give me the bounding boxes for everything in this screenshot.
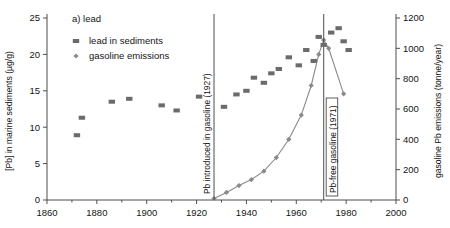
x-axis-tick-label: 1920: [186, 207, 207, 218]
lead-sediment-point: [296, 63, 302, 67]
lead-sediment-point: [345, 48, 351, 52]
lead-sediment-point: [79, 116, 85, 120]
x-axis-tick-label: 1860: [36, 207, 57, 218]
right-axis-title: gasoline Pb emissions (tonne/year): [433, 44, 443, 178]
lead-sediment-point: [311, 59, 317, 63]
lead-sediment-point: [126, 97, 132, 101]
right-axis-tick-label: 1200: [403, 12, 424, 23]
lead-sediment-point: [243, 89, 249, 93]
lead-sediment-point: [74, 133, 80, 137]
panel-label: a) lead: [72, 13, 101, 24]
lead-sediment-point: [109, 100, 115, 104]
gasoline-emissions-point: [309, 83, 314, 88]
lead-sediment-point: [286, 55, 292, 59]
x-axis-tick-label: 1980: [336, 207, 357, 218]
lead-sediment-point: [158, 103, 164, 107]
lead-chart-figure: 1860188019001920194019601980200005101520…: [0, 0, 450, 228]
lead-sediment-point: [173, 108, 179, 112]
left-axis-tick-label: 20: [29, 49, 40, 60]
gasoline-emissions-point: [224, 190, 229, 195]
left-axis-tick-label: 15: [29, 85, 40, 96]
left-axis-tick-label: 25: [29, 12, 40, 23]
gasoline-emissions-point: [299, 112, 304, 117]
x-axis-tick-label: 1940: [236, 207, 257, 218]
gasoline-emissions-point: [341, 91, 346, 96]
legend-marker-diamond: [73, 53, 78, 58]
right-axis-tick-label: 400: [403, 134, 419, 145]
lead-sediment-point: [268, 71, 274, 75]
right-axis-tick-label: 0: [403, 194, 408, 205]
lead-sediment-point: [276, 67, 282, 71]
left-axis-tick-label: 0: [35, 194, 40, 205]
lead-sediment-point: [303, 48, 309, 52]
x-axis-tick-label: 1960: [286, 207, 307, 218]
chart-canvas: 1860188019001920194019601980200005101520…: [0, 0, 450, 228]
lead-sediment-point: [316, 35, 322, 39]
legend-label: lead in sediments: [89, 35, 163, 46]
lead-sediment-point: [221, 105, 227, 109]
left-axis-tick-label: 10: [29, 122, 40, 133]
legend-label: gasoline emissions: [89, 50, 170, 61]
right-axis-tick-label: 1000: [403, 43, 424, 54]
lead-sediment-point: [251, 76, 257, 80]
gasoline-emissions-point: [236, 183, 241, 188]
lead-sediment-point: [328, 31, 334, 35]
right-axis-tick-label: 600: [403, 103, 419, 114]
lead-sediment-point: [335, 26, 341, 30]
right-axis-tick-label: 200: [403, 164, 419, 175]
lead-sediment-point: [261, 81, 267, 85]
annotation-pb-free: Pb-free gasoline (1971): [328, 105, 338, 193]
lead-sediment-point: [321, 43, 327, 47]
left-axis-title: [Pb] in marine sediments (µg/g): [4, 51, 14, 171]
lead-sediment-point: [233, 92, 239, 96]
x-axis-tick-label: 1900: [136, 207, 157, 218]
right-axis-tick-label: 800: [403, 73, 419, 84]
lead-sediment-point: [340, 39, 346, 43]
legend-marker-square: [73, 39, 79, 43]
gasoline-emissions-point: [316, 52, 321, 57]
x-axis-tick-label: 2000: [385, 207, 406, 218]
left-axis-tick-label: 5: [35, 158, 40, 169]
x-axis-tick-label: 1880: [86, 207, 107, 218]
annotation-pb-introduced: Pb introduced in gasoline (1927): [202, 73, 212, 194]
